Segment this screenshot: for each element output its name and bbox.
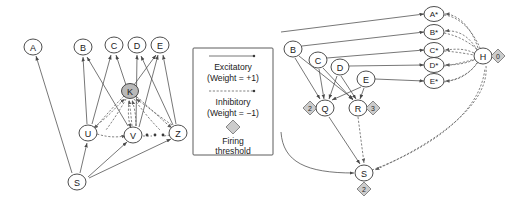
node-C-star[interactable]: C* xyxy=(424,43,444,58)
firing-threshold-value-Q: 2 xyxy=(308,105,312,112)
left-panel-nodes: A B C D E K U xyxy=(24,37,187,190)
node-K[interactable]: K xyxy=(122,84,139,99)
node-R[interactable]: R 3 xyxy=(349,100,380,116)
node-label: S xyxy=(74,178,80,188)
legend-inhibitory-weight: (Weight = −1) xyxy=(207,108,259,118)
node-label: C xyxy=(315,56,322,66)
node-B-star[interactable]: B* xyxy=(424,25,444,40)
node-D-star[interactable]: D* xyxy=(424,58,444,73)
node-label: S xyxy=(361,169,367,179)
firing-threshold-value-R: 3 xyxy=(371,105,375,112)
node-H[interactable]: H 0 xyxy=(474,48,505,64)
node-U[interactable]: U xyxy=(79,125,97,141)
node-C-right[interactable]: C xyxy=(309,52,327,68)
node-label: C xyxy=(111,41,118,51)
legend-excitatory-weight: (Weight = +1) xyxy=(207,73,259,83)
node-E[interactable]: E xyxy=(151,37,169,53)
node-B[interactable]: B xyxy=(74,39,92,55)
node-label: Q xyxy=(321,104,328,114)
node-label: D xyxy=(134,41,141,51)
node-A[interactable]: A xyxy=(24,39,42,55)
legend-excitatory-label: Excitatory xyxy=(214,62,252,72)
legend-inhibitory-label: Inhibitory xyxy=(216,97,252,107)
node-label: A* xyxy=(430,10,438,19)
node-C[interactable]: C xyxy=(105,37,123,53)
right-panel-nodes: A* B* C* D* E* H 0 xyxy=(284,7,505,197)
node-B-right[interactable]: B xyxy=(284,41,302,57)
node-label: B* xyxy=(430,28,438,37)
legend-threshold-line1: Firing xyxy=(222,136,244,146)
node-label: B xyxy=(290,45,296,55)
node-label: A xyxy=(30,43,36,53)
left-panel-edges xyxy=(36,55,176,178)
right-panel-edges xyxy=(281,14,486,173)
node-V[interactable]: V xyxy=(124,127,142,143)
node-label: E xyxy=(363,75,369,85)
node-label: V xyxy=(130,131,136,141)
node-label: E* xyxy=(430,77,438,86)
network-diagram: A B C D E K U xyxy=(0,0,517,199)
edge-type-legend: Excitatory (Weight = +1) Inhibitory (Wei… xyxy=(193,48,273,156)
node-S-right[interactable]: S 2 xyxy=(355,165,373,196)
node-Z[interactable]: Z xyxy=(169,125,187,141)
node-Q[interactable]: 2 Q xyxy=(303,100,334,116)
figure-canvas: A B C D E K U xyxy=(0,0,517,199)
node-D[interactable]: D xyxy=(128,37,146,53)
node-label: R xyxy=(355,104,362,114)
node-label: E xyxy=(157,41,163,51)
firing-threshold-value-H: 0 xyxy=(496,53,500,60)
node-label: Z xyxy=(175,129,181,139)
node-D-right[interactable]: D xyxy=(331,59,349,75)
node-label: D* xyxy=(430,61,439,70)
node-label: C* xyxy=(430,46,439,55)
node-label: D xyxy=(337,63,344,73)
legend-threshold-line2: threshold xyxy=(215,146,251,156)
node-label: U xyxy=(85,129,92,139)
firing-threshold-value-S: 2 xyxy=(362,186,366,193)
node-label: K xyxy=(127,87,133,97)
node-E-star[interactable]: E* xyxy=(424,74,444,89)
node-label: H xyxy=(480,52,487,62)
node-S[interactable]: S xyxy=(68,174,86,190)
node-A-star[interactable]: A* xyxy=(424,7,444,22)
node-E-right[interactable]: E xyxy=(357,71,375,87)
node-label: B xyxy=(80,43,86,53)
